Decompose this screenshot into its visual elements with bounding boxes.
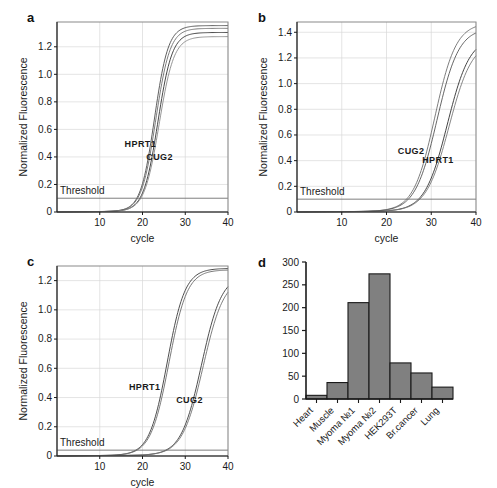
panel-a-xtick: 10 [94, 217, 106, 228]
panel-b-ytick: 0.4 [278, 155, 292, 166]
panel-a-xtick: 40 [222, 217, 234, 228]
panel-c-ytick: 0.8 [38, 333, 52, 344]
bar-lung [432, 387, 453, 399]
panel-c-chart: 00.20.40.60.81.01.210203040 cycle Normal… [0, 244, 248, 488]
panel-a-ytick: 0.6 [38, 124, 52, 135]
panel-b-ytick: 0.6 [278, 129, 292, 140]
panel-b-chart: 00.20.40.60.81.01.21.410203040 cycle Nor… [248, 0, 496, 244]
panel-d-ytick: 300 [282, 257, 299, 268]
panel-a-xtick: 20 [137, 217, 149, 228]
bar-hek293t [390, 363, 411, 399]
panel-b-xlabel: cycle [375, 232, 399, 244]
panel-c-xtick: 40 [222, 461, 234, 472]
panel-b-xtick: 20 [381, 217, 393, 228]
panel-b-series-label-cug2: CUG2 [398, 146, 425, 156]
panel-d-ytick: 250 [282, 279, 299, 290]
panel-a-ytick: 0.4 [38, 151, 52, 162]
panel-c-series-label-hprt1: HPRT1 [129, 382, 161, 392]
panel-a-ytick: 0 [46, 206, 52, 217]
panel-b-threshold-label: Threshold [300, 186, 344, 197]
bar-myoma-2 [369, 274, 390, 399]
panel-a-ytick: 1.2 [38, 41, 52, 52]
panel-c-series-label-cug2: CUG2 [176, 395, 203, 405]
panel-a: a 00.20.40.60.81.01.210203040 cycle Norm… [0, 0, 248, 244]
panel-a-xtick: 30 [180, 217, 192, 228]
panel-a-ylabel: Normalized Fluorescence [17, 57, 29, 176]
panel-c-ytick: 1.2 [38, 275, 52, 286]
panel-b-series-label-hprt1: HPRT1 [422, 155, 454, 165]
panel-b-ytick: 1.2 [278, 52, 292, 63]
panel-a-series-label-cug2: CUG2 [146, 152, 173, 162]
panel-a-ytick: 1.0 [38, 69, 52, 80]
panel-c-ytick: 0 [46, 450, 52, 461]
panel-a-threshold-label: Threshold [60, 185, 104, 196]
panel-b-ylabel: Normalized Fluorescence [257, 57, 269, 176]
panel-b-ytick: 0.2 [278, 181, 292, 192]
panel-c-xlabel: cycle [131, 476, 155, 488]
panel-a-ytick: 0.2 [38, 179, 52, 190]
bar-br-cancer [411, 373, 432, 399]
bar-myoma-1 [348, 303, 369, 399]
panel-c-ytick: 0.2 [38, 421, 52, 432]
panel-c: c 00.20.40.60.81.01.210203040 cycle Norm… [0, 244, 248, 488]
panel-b-ytick: 1.0 [278, 78, 292, 89]
panel-b-xtick: 30 [426, 217, 438, 228]
panel-c-xtick: 20 [137, 461, 149, 472]
panel-d: d 050100150200250300 HeartMuscleMyoma №1… [248, 244, 496, 488]
panel-c-ylabel: Normalized Fluorescence [17, 301, 29, 420]
panel-b-ytick: 1.4 [278, 27, 292, 38]
panel-b-ytick: 0 [286, 206, 292, 217]
panel-b: b 00.20.40.60.81.01.21.410203040 cycle N… [248, 0, 496, 244]
panel-c-ytick: 0.6 [38, 363, 52, 374]
figure-panel-grid: a 00.20.40.60.81.01.210203040 cycle Norm… [0, 0, 497, 488]
panel-d-ytick: 50 [288, 371, 300, 382]
panel-d-ytick: 0 [293, 394, 299, 405]
panel-a-chart: 00.20.40.60.81.01.210203040 cycle Normal… [0, 0, 248, 244]
panel-c-threshold-label: Threshold [60, 437, 104, 448]
panel-a-xlabel: cycle [131, 232, 155, 244]
panel-c-ytick: 1.0 [38, 304, 52, 315]
panel-a-ytick: 0.8 [38, 96, 52, 107]
panel-a-series-label-hprt1: HPRT1 [125, 139, 157, 149]
panel-d-category-label: Lung [418, 405, 441, 428]
panel-c-xtick: 10 [94, 461, 106, 472]
bar-muscle [327, 383, 348, 399]
panel-d-ytick: 100 [282, 348, 299, 359]
panel-b-xtick: 40 [470, 217, 482, 228]
panel-d-ytick: 200 [282, 302, 299, 313]
panel-c-ytick: 0.4 [38, 392, 52, 403]
panel-d-chart: 050100150200250300 HeartMuscleMyoma №1My… [248, 244, 496, 488]
panel-b-xtick: 10 [336, 217, 348, 228]
panel-b-ytick: 0.8 [278, 104, 292, 115]
panel-c-xtick: 30 [180, 461, 192, 472]
panel-d-ytick: 150 [282, 325, 299, 336]
